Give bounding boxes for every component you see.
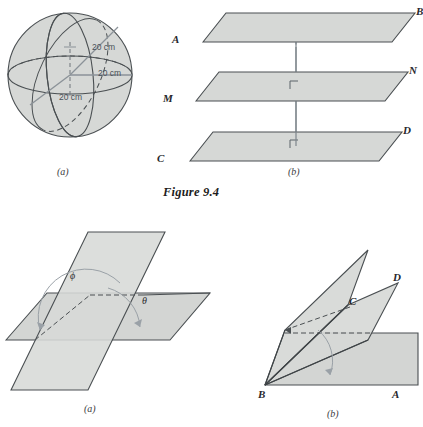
vertex-label-A: A [392,389,399,400]
angle-label-phi: ϕ [70,271,75,281]
plane-label-C: C [157,153,164,164]
plane-MN [196,72,408,101]
plane-label-D: D [403,125,411,136]
vertex-label-C: C [349,296,356,307]
vertex-label-B: B [258,389,265,400]
parallel-planes-diagram [190,13,415,161]
caption-panel-b-planes: (b) [288,167,300,177]
figure-page: 20 cm 20 cm 20 cm (a) B A N M D C (b) Fi… [0,0,423,427]
vertex-label-D: D [393,272,401,283]
plane-label-A: A [172,34,179,45]
plane-label-M: M [163,93,173,104]
plane-AB [203,13,415,42]
figure-title: Figure 9.4 [163,186,219,199]
sphere-radius-label-2: 20 cm [98,69,121,78]
plane-label-N: N [409,65,417,76]
sphere-radius-label-3: 20 cm [59,93,82,102]
caption-panel-a-dihedral: (a) [84,404,96,414]
plane-label-B: B [416,6,423,17]
dihedral-angle-diagram [6,232,210,390]
caption-panel-b-vertex: (b) [327,409,339,419]
caption-panel-a-sphere: (a) [57,167,69,177]
sphere-radius-label-1: 20 cm [92,43,115,52]
angle-label-theta: θ [142,296,147,306]
figure-canvas [0,0,423,427]
